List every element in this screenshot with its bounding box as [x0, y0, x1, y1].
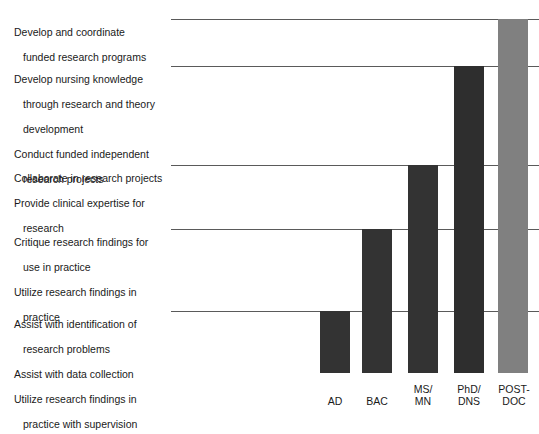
axis-tick-line: BAC [354, 395, 400, 407]
annotation-block-ad: Assist with identification of research p… [14, 305, 182, 434]
axis-tick-bac: BAC [354, 395, 400, 407]
annotation-line: research problems [14, 343, 182, 356]
bar-ad [320, 311, 350, 373]
annotation-line: Provide clinical expertise for [14, 197, 180, 210]
annotation-line: Develop and coordinate [14, 26, 174, 39]
axis-tick-line: AD [312, 395, 358, 407]
axis-tick-line: MS/ [400, 383, 446, 395]
axis-tick-phd-dns: PhD/ DNS [446, 383, 492, 407]
annotation-line: Develop nursing knowledge [14, 73, 174, 86]
axis-tick-line: DOC [490, 395, 538, 407]
axis-tick-ad: AD [312, 395, 358, 407]
axis-tick-line: PhD/ [446, 383, 492, 395]
bar-phd-dns [454, 66, 484, 373]
annotation-line: Utilize research findings in [14, 393, 182, 406]
annotation-line: Critique research findings for [14, 236, 174, 249]
annotation-line: practice with supervision [14, 418, 182, 431]
axis-tick-ms-mn: MS/ MN [400, 383, 446, 407]
annotation-line: Assist with identification of [14, 318, 182, 331]
gridline-level-5 [171, 19, 539, 20]
axis-tick-post-doc: POST- DOC [490, 383, 538, 407]
annotation-line: Utilize research findings in [14, 286, 174, 299]
annotation-line: Assist with data collection [14, 368, 182, 381]
annotation-line: Collaborate in research projects [14, 172, 180, 185]
bar-post-doc [498, 19, 528, 373]
bar-ms-mn [408, 165, 438, 373]
annotation-line: through research and theory [14, 98, 174, 111]
axis-tick-line: MN [400, 395, 446, 407]
bar-bac [362, 229, 392, 373]
axis-tick-line: DNS [446, 395, 492, 407]
axis-tick-line: POST- [490, 383, 538, 395]
annotation-line: use in practice [14, 261, 174, 274]
annotation-line: development [14, 123, 174, 136]
